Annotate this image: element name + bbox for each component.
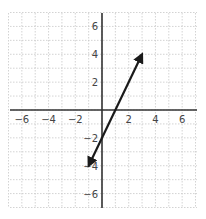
y-tick-label: −6: [83, 189, 98, 200]
x-tick-label: 4: [152, 114, 158, 125]
y-tick-label: 4: [92, 49, 98, 60]
x-tick-label: −2: [68, 114, 83, 125]
x-tick-label: −4: [41, 114, 56, 125]
x-tick-label: 6: [179, 114, 185, 125]
y-tick-label: −2: [83, 133, 98, 144]
y-tick-label: 6: [92, 21, 98, 32]
x-tick-label: −6: [14, 114, 29, 125]
coordinate-plane: −6−4−2246642−2−4−6: [0, 0, 206, 219]
y-tick-label: 2: [92, 77, 98, 88]
x-tick-label: 2: [126, 114, 132, 125]
